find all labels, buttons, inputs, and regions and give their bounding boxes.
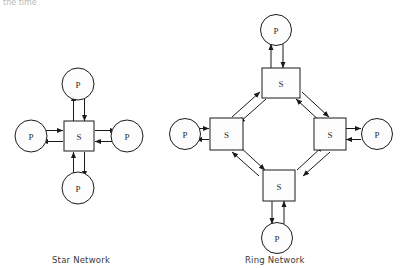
ring-host-top-label: P: [273, 26, 278, 36]
star-center-switch[interactable]: S: [64, 121, 94, 151]
ring-host-right-label: P: [374, 130, 379, 140]
ring-host-left-label: P: [182, 130, 187, 140]
ring-link-bottom: [272, 201, 284, 224]
ring-switch-top-label: S: [278, 79, 283, 89]
star-host-bottom[interactable]: P: [62, 172, 94, 204]
ring-switch-bottom-label: S: [276, 182, 281, 192]
ring-switch-left[interactable]: S: [210, 118, 243, 150]
star-host-top-label: P: [75, 80, 80, 90]
star-host-bottom-label: P: [75, 184, 80, 194]
star-host-top[interactable]: P: [62, 68, 94, 100]
ring-host-right[interactable]: P: [362, 119, 393, 150]
ring-switch-bottom[interactable]: S: [263, 170, 295, 201]
star-host-right[interactable]: P: [111, 120, 143, 152]
ring-switch-left-label: S: [224, 130, 229, 140]
ring-link-right: [346, 129, 361, 140]
ring-link-top: [271, 44, 283, 68]
ring-switch-right-label: S: [327, 130, 332, 140]
star-host-left-label: P: [28, 132, 33, 142]
star-network-group: S P P P P: [15, 68, 143, 204]
star-host-left[interactable]: P: [15, 120, 47, 152]
ring-switch-top[interactable]: S: [262, 68, 300, 98]
star-host-right-label: P: [124, 132, 129, 142]
ring-host-top[interactable]: P: [261, 15, 292, 46]
network-diagram-canvas: S P P P P: [0, 0, 402, 268]
star-center-switch-label: S: [76, 132, 81, 142]
ring-network-group: S S S S P P P P: [170, 15, 393, 254]
ring-network-caption: Ring Network: [245, 255, 305, 265]
ring-switch-right[interactable]: S: [314, 118, 346, 150]
ring-host-bottom[interactable]: P: [262, 223, 293, 254]
ring-host-left[interactable]: P: [170, 119, 201, 150]
star-network-caption: Star Network: [52, 255, 110, 265]
ring-host-bottom-label: P: [274, 234, 279, 244]
